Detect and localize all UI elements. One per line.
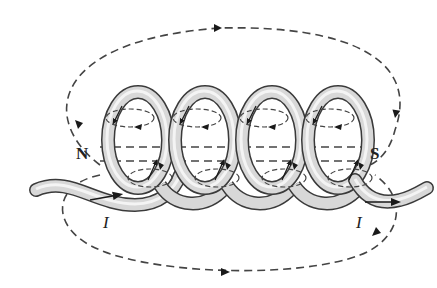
current-label-left: I: [102, 213, 110, 232]
field-arrow-icon: [75, 120, 83, 129]
solenoid-coil: [36, 91, 427, 205]
arrow-icon: [134, 124, 142, 130]
north-pole-label: N: [76, 144, 89, 163]
arrow-icon: [334, 124, 342, 130]
field-arrow-icon: [214, 24, 222, 32]
south-pole-label: S: [370, 144, 379, 163]
current-label-right: I: [355, 213, 363, 232]
field-arrow-icon: [372, 227, 381, 236]
field-arrow-icon: [221, 268, 230, 276]
arrow-icon: [268, 124, 276, 130]
solenoid-diagram: N S I I: [0, 0, 437, 288]
arrow-icon: [201, 124, 209, 130]
